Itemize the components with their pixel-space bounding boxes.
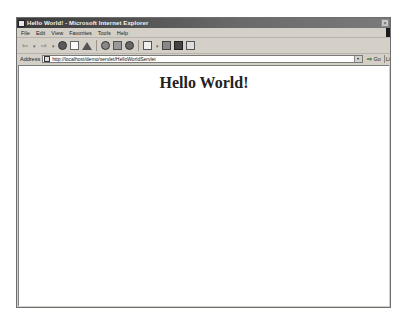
go-label: Go (373, 56, 380, 62)
links-separator (384, 55, 385, 63)
menu-tools[interactable]: Tools (98, 30, 111, 36)
forward-dropdown-icon[interactable]: ▾ (51, 43, 55, 49)
home-icon[interactable] (82, 42, 92, 50)
address-bar: Address http://localhost/demo/servlet/He… (17, 54, 390, 64)
mail-dropdown-icon[interactable]: ▾ (155, 43, 159, 49)
links-button[interactable]: Li (386, 56, 390, 62)
mail-icon[interactable] (143, 41, 152, 50)
history-icon[interactable] (125, 41, 134, 50)
favorites-icon[interactable] (113, 41, 122, 50)
print-icon[interactable] (162, 41, 171, 50)
menu-edit[interactable]: Edit (36, 30, 45, 36)
toolbar-separator (138, 40, 139, 51)
menu-file[interactable]: File (21, 30, 30, 36)
windows-logo-throbber (386, 28, 390, 37)
window-title: Hello World! - Microsoft Internet Explor… (27, 20, 148, 26)
back-dropdown-icon[interactable]: ▾ (32, 43, 36, 49)
refresh-icon[interactable] (70, 41, 79, 50)
address-dropdown-icon[interactable]: ▾ (354, 56, 362, 62)
page-content: Hello World! (18, 65, 389, 306)
menu-help[interactable]: Help (117, 30, 128, 36)
search-icon[interactable] (101, 41, 110, 50)
close-button[interactable]: × (381, 19, 389, 27)
browser-window: Hello World! - Microsoft Internet Explor… (16, 17, 391, 308)
back-icon[interactable]: ⇦ (20, 41, 29, 50)
go-arrow-icon: ⇨ (367, 56, 372, 62)
edit-icon[interactable] (174, 41, 183, 50)
page-icon (44, 56, 50, 62)
ie-logo-icon (18, 20, 25, 27)
page-heading: Hello World! (19, 74, 389, 92)
address-label: Address (20, 56, 40, 62)
forward-icon[interactable]: ⇨ (39, 41, 48, 50)
address-url[interactable]: http://localhost/demo/servlet/HelloWorld… (52, 56, 156, 62)
menu-view[interactable]: View (51, 30, 63, 36)
menu-favorites[interactable]: Favorites (69, 30, 92, 36)
title-bar[interactable]: Hello World! - Microsoft Internet Explor… (17, 18, 390, 28)
address-input[interactable]: http://localhost/demo/servlet/HelloWorld… (42, 55, 363, 63)
toolbar-separator (96, 40, 97, 51)
standard-toolbar: ⇦ ▾ ⇨ ▾ ▾ (17, 38, 390, 54)
stop-icon[interactable] (58, 41, 67, 50)
discuss-icon[interactable] (186, 41, 195, 50)
menu-bar: File Edit View Favorites Tools Help (17, 28, 390, 38)
go-button[interactable]: ⇨ Go (367, 56, 381, 62)
